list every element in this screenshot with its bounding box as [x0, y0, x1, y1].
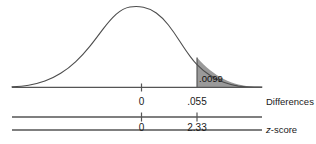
chart-canvas [0, 0, 316, 144]
differences-axis-label: Differences [266, 96, 314, 107]
tail-area-label: .0099 [199, 73, 223, 84]
normal-curve [12, 7, 262, 87]
differences-tick-label-0: 0 [139, 96, 145, 107]
differences-tick-label-055: .055 [187, 96, 206, 107]
normal-curve-figure: .0099 0 .055 Differences 0 2.33 z-score [0, 0, 316, 144]
zscore-axis-label: z-score [266, 124, 297, 135]
zscore-tick-label-233: 2.33 [187, 122, 206, 133]
zscore-axis-label-rest: -score [271, 124, 297, 135]
zscore-tick-label-0: 0 [139, 122, 145, 133]
